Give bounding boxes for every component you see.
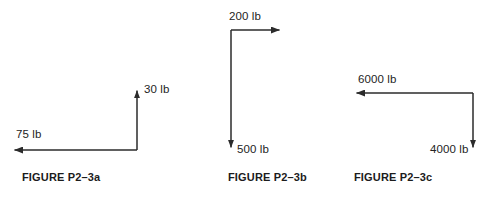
figure-a-caption: FIGURE P2–3a: [22, 172, 100, 183]
figure-board: 30 lb 75 lb FIGURE P2–3a 200 lb 500 lb F…: [0, 0, 499, 205]
figure-a-force-label-vertical: 30 lb: [144, 84, 169, 96]
figure-b-caption: FIGURE P2–3b: [228, 172, 307, 183]
figure-b-vectors: [231, 30, 280, 148]
figure-c-force-label-vertical: 4000 lb: [430, 144, 468, 156]
figure-a-vectors: [15, 91, 138, 151]
figure-c-vectors: [357, 93, 474, 148]
figure-c-force-label-horizontal: 6000 lb: [358, 74, 396, 86]
figure-a-force-label-horizontal: 75 lb: [16, 129, 41, 141]
figure-b-force-label-horizontal: 200 lb: [229, 11, 261, 23]
figure-b-force-label-vertical: 500 lb: [237, 144, 269, 156]
figure-c-caption: FIGURE P2–3c: [354, 172, 432, 183]
